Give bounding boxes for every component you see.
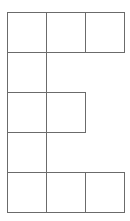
grid-cell-r2-c1 [46,92,86,133]
grid-cell-r4-c1 [46,172,86,213]
grid-cell-r1-c0 [7,52,47,93]
letter-e-grid [0,0,130,221]
grid-cell-r0-c1 [46,12,86,53]
grid-cell-r0-c2 [85,12,125,53]
grid-cell-r3-c0 [7,132,47,173]
grid-cell-r4-c0 [7,172,47,213]
grid-cell-r2-c0 [7,92,47,133]
grid-cell-r4-c2 [85,172,125,213]
grid-cell-r0-c0 [7,12,47,53]
